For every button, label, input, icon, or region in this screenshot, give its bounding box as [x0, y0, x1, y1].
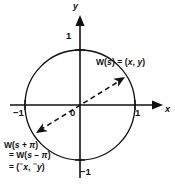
y-axis-label: y	[73, 2, 78, 11]
l2-suffix: )	[48, 150, 51, 160]
y-axis	[75, 15, 84, 178]
l1-op: +	[20, 140, 30, 150]
l3-suffix: )	[42, 162, 45, 172]
origin-label: 0	[70, 108, 75, 118]
l2-eq: = W(	[9, 150, 27, 160]
x-axis-label: x	[165, 105, 170, 114]
w-s-middle: ) = (	[112, 57, 128, 67]
tick-label-right: 1	[135, 108, 140, 118]
l3-eq: = (	[9, 162, 19, 172]
tick-label-left: −1	[13, 108, 24, 118]
point-label-w-s: W(s) = (x, y)	[96, 58, 145, 67]
tick-label-top: 1	[66, 31, 71, 41]
l2-op: −	[32, 150, 42, 160]
unit-circle-figure: y x 1 −1 −1 1 0 W(s) = (x, y) W(s + π) =…	[0, 0, 175, 189]
y-axis-arrowhead	[75, 15, 84, 26]
w-s-arrowhead	[113, 73, 127, 87]
w-s-plus-pi-arrowhead	[34, 123, 48, 137]
w-s-suffix: )	[142, 57, 145, 67]
l1-suffix: )	[35, 140, 38, 150]
w-s-plus-pi-line-1: W(s + π)	[4, 140, 51, 150]
point-label-w-s-plus-pi: W(s + π) = W(s − π) = (⁻x, ⁻y)	[4, 140, 51, 172]
x-axis-arrowhead	[152, 100, 163, 109]
l1-prefix: W(	[4, 140, 15, 150]
tick-label-bottom: −1	[80, 167, 91, 177]
w-s-plus-pi-line-3: = (⁻x, ⁻y)	[4, 161, 51, 173]
w-s-prefix: W(	[96, 57, 107, 67]
w-s-plus-pi-line-2: = W(s − π)	[4, 150, 51, 160]
